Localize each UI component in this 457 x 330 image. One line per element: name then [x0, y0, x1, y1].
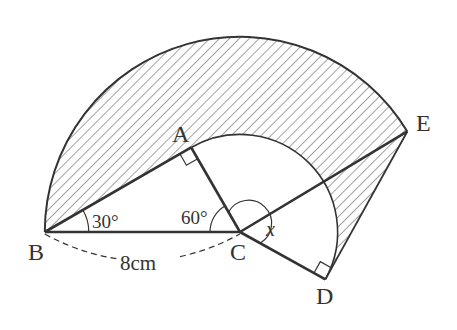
point-label-E: E — [416, 110, 431, 136]
angle-arc-B — [83, 210, 89, 232]
point-label-A: A — [172, 121, 190, 147]
geometry-figure: A B C D E 30° 60° x 8cm — [0, 0, 457, 330]
angle-label-x: x — [265, 218, 275, 240]
point-label-D: D — [316, 283, 333, 309]
point-label-B: B — [28, 239, 44, 265]
angle-label-C: 60° — [181, 207, 208, 228]
angle-label-B: 30° — [92, 211, 119, 232]
angle-arc-C — [210, 206, 225, 232]
length-label-BC: 8cm — [120, 251, 156, 275]
segment-CD — [240, 232, 325, 279]
point-label-C: C — [230, 239, 246, 265]
